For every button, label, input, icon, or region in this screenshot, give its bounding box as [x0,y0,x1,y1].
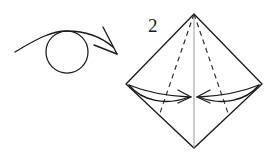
diagram-canvas: 2 [0,0,274,153]
step-number-label: 2 [148,15,158,36]
origami-diagram-figure: 2 [0,0,274,153]
